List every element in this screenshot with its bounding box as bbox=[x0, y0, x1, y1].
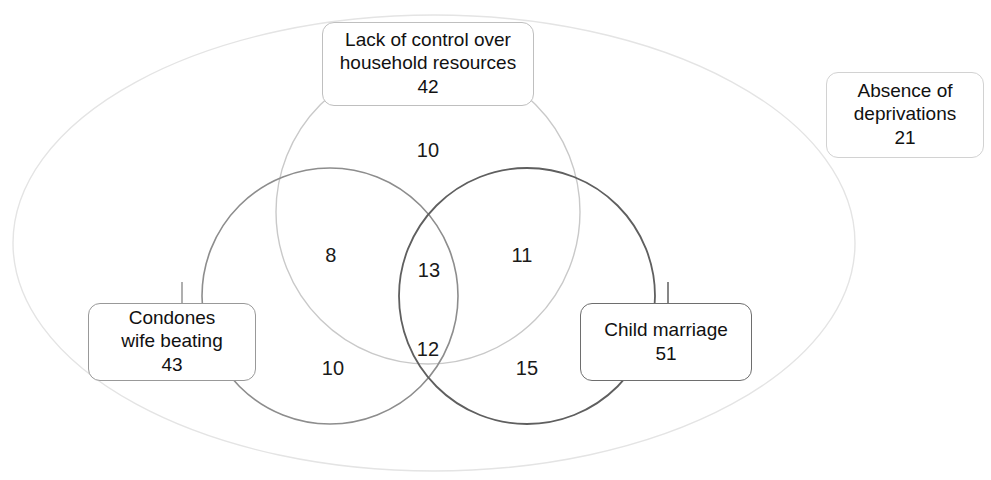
set-label-household-count: 42 bbox=[417, 76, 438, 98]
label-absence-count: 21 bbox=[894, 127, 915, 149]
region-count-wife-beating-only: 10 bbox=[322, 358, 345, 378]
region-count-wife-beating-and-child-marriage: 12 bbox=[417, 339, 440, 359]
region-count-household-and-wife-beating: 8 bbox=[325, 245, 336, 265]
label-absence-of-deprivations[interactable]: Absence of deprivations 21 bbox=[826, 72, 984, 158]
set-label-child-marriage-count: 51 bbox=[655, 343, 676, 365]
region-count-household-only: 10 bbox=[417, 140, 440, 160]
set-label-child-marriage[interactable]: Child marriage 51 bbox=[580, 303, 752, 381]
set-label-household[interactable]: Lack of control over household resources… bbox=[322, 22, 534, 106]
set-label-wife-beating[interactable]: Condones wife beating 43 bbox=[88, 303, 256, 381]
set-label-wife-beating-title: Condones wife beating bbox=[121, 307, 222, 352]
set-circle-wife-beating bbox=[202, 168, 458, 424]
label-absence-title: Absence of deprivations bbox=[854, 80, 956, 125]
set-label-household-title: Lack of control over household resources bbox=[340, 29, 516, 74]
set-label-child-marriage-title: Child marriage bbox=[604, 319, 728, 341]
set-circle-child-marriage bbox=[399, 168, 655, 424]
venn-diagram-figure: 10 8 13 11 12 10 15 Lack of control over… bbox=[0, 0, 991, 480]
region-count-household-and-child-marriage: 11 bbox=[511, 245, 532, 265]
region-count-all-three: 13 bbox=[418, 260, 441, 280]
region-count-child-marriage-only: 15 bbox=[516, 358, 539, 378]
set-label-wife-beating-count: 43 bbox=[161, 354, 182, 376]
